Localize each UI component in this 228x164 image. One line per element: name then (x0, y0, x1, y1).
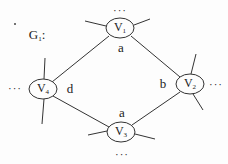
stub-v1-right (134, 19, 150, 25)
edge-v1-v2 (131, 36, 180, 77)
edge-label-v2-b: b (160, 77, 167, 90)
node-v1: V1 (114, 21, 126, 35)
stub-v2-down (193, 94, 203, 110)
graph-title: G1: (29, 28, 46, 43)
stub-v1-left (85, 21, 106, 26)
node-v4: V4 (37, 82, 49, 96)
node-v3: V3 (115, 125, 127, 139)
node-v2: V2 (184, 77, 196, 91)
ellipsis-v3-bottom: ··· (115, 149, 129, 160)
edge-label-v1-a: a (118, 41, 124, 54)
stub-v3-right (135, 134, 155, 139)
ellipsis-v4-left: ··· (8, 83, 22, 94)
edge-label-v3-a: a (119, 106, 125, 119)
graph-diagram: G1: V1 V2 V3 V4 a d b a ··· ··· ··· ··· (0, 0, 228, 164)
edge-label-v4-d: d (67, 82, 74, 95)
marker-dot (14, 23, 16, 25)
ellipsis-v1-top: ··· (113, 5, 127, 16)
stub-v2-up (191, 54, 196, 74)
stub-v4-up (44, 58, 45, 79)
edge-v1-v4 (52, 36, 109, 82)
stub-v4-down (42, 99, 44, 124)
ellipsis-v2-right: ··· (209, 79, 223, 90)
stub-v3-left (88, 131, 107, 135)
edge-v3-v2 (132, 92, 180, 125)
edge-v4-v3 (53, 96, 109, 127)
